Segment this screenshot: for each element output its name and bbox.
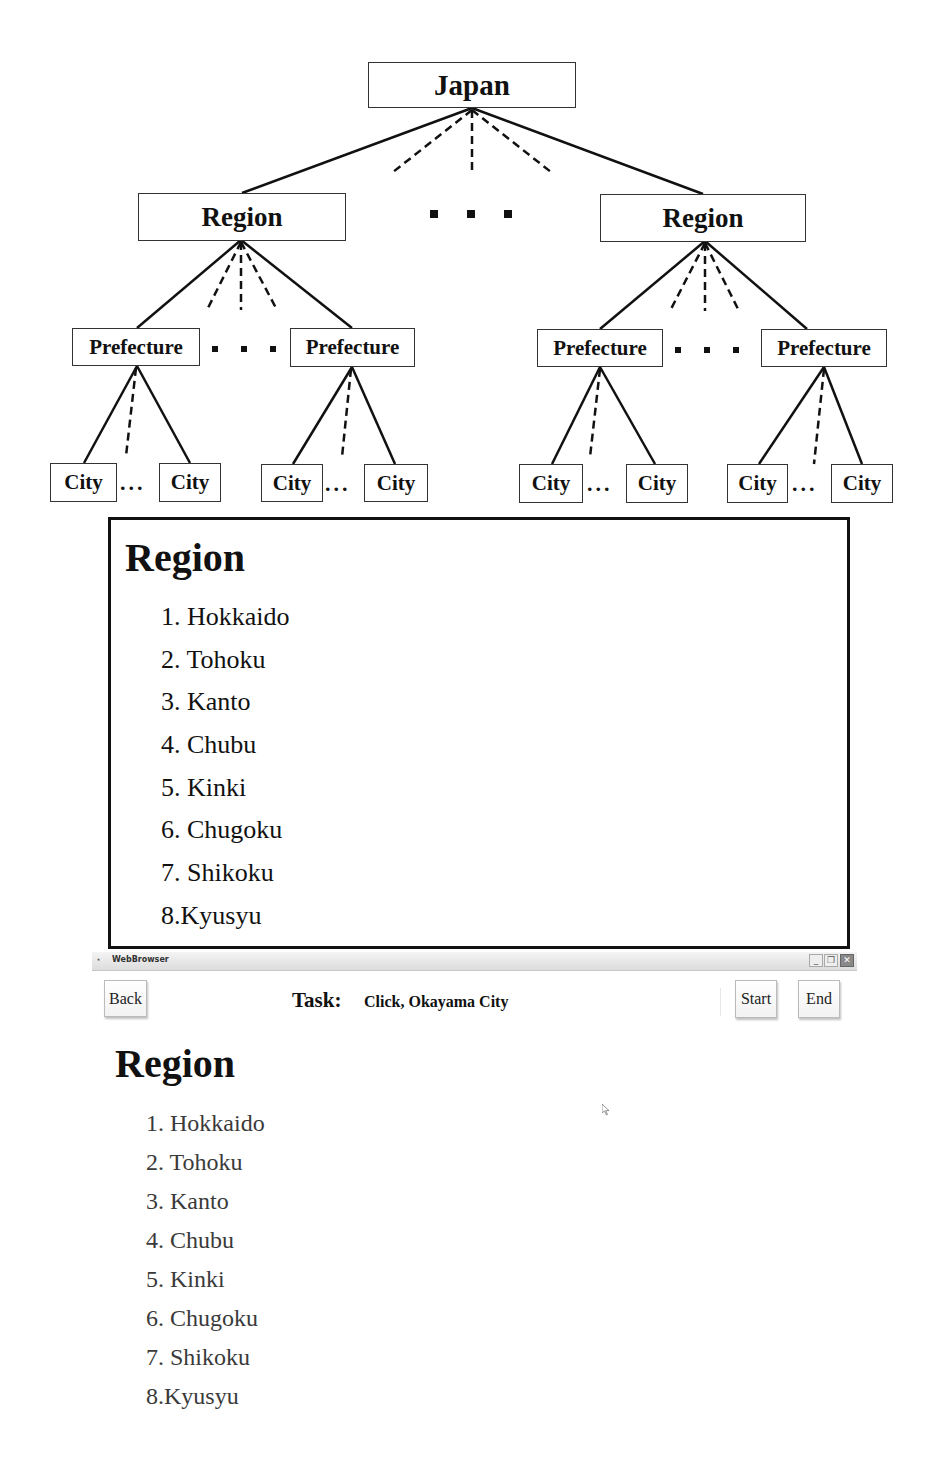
region-link-list: 1. Hokkaido 2. Tohoku 3. Kanto 4. Chubu … xyxy=(146,1104,265,1416)
panel-heading: Region xyxy=(125,534,245,581)
ellipsis-dot xyxy=(704,347,710,353)
node-region-left: Region xyxy=(138,193,346,241)
ellipsis-dot xyxy=(733,347,739,353)
region-link[interactable]: 1. Hokkaido xyxy=(146,1104,265,1143)
panel-region-item: 7. Shikoku xyxy=(161,852,290,895)
end-button[interactable]: End xyxy=(798,980,840,1018)
region-link[interactable]: 4. Chubu xyxy=(146,1221,265,1260)
node-city: City xyxy=(364,464,428,502)
minimize-button[interactable]: _ xyxy=(809,954,823,967)
region-link[interactable]: 7. Shikoku xyxy=(146,1338,265,1377)
region-link[interactable]: 3. Kanto xyxy=(146,1182,265,1221)
city-ellipsis: ... xyxy=(120,470,146,496)
panel-region-item: 3. Kanto xyxy=(161,681,290,724)
region-link[interactable]: 2. Tohoku xyxy=(146,1143,265,1182)
task-instruction: Click, Okayama City xyxy=(364,993,508,1011)
ellipsis-dot xyxy=(430,210,438,218)
node-prefecture: Prefecture xyxy=(761,329,887,367)
task-label: Task: xyxy=(292,988,341,1013)
back-button[interactable]: Back xyxy=(104,980,147,1017)
panel-region-item: 2. Tohoku xyxy=(161,639,290,682)
node-city: City xyxy=(261,464,323,502)
ellipsis-dot xyxy=(212,346,218,352)
panel-region-item: 5. Kinki xyxy=(161,767,290,810)
ellipsis-dot xyxy=(270,346,276,352)
hierarchy-diagram: Japan Region Region Prefecture Prefectur… xyxy=(0,0,935,510)
node-city: City xyxy=(727,464,788,503)
panel-region-item: 8.Kyusyu xyxy=(161,895,290,938)
app-icon: ◔ xyxy=(95,955,105,965)
node-prefecture: Prefecture xyxy=(72,328,200,366)
ellipsis-dot xyxy=(241,346,247,352)
node-japan: Japan xyxy=(368,62,576,108)
node-prefecture: Prefecture xyxy=(537,329,663,367)
panel-region-item: 1. Hokkaido xyxy=(161,596,290,639)
panel-region-item: 4. Chubu xyxy=(161,724,290,767)
node-prefecture: Prefecture xyxy=(290,328,415,367)
city-ellipsis: ... xyxy=(792,471,818,497)
window-title: WebBrowser xyxy=(112,955,169,964)
region-link[interactable]: 6. Chugoku xyxy=(146,1299,265,1338)
node-region-right: Region xyxy=(600,194,806,242)
node-city: City xyxy=(831,464,893,503)
restore-button[interactable]: ❐ xyxy=(824,954,838,967)
page-heading: Region xyxy=(115,1040,235,1087)
city-ellipsis: ... xyxy=(325,471,351,497)
node-city: City xyxy=(519,464,583,503)
window-titlebar[interactable]: ◔ WebBrowser _ ❐ ✕ xyxy=(92,952,857,971)
ellipsis-dot xyxy=(675,347,681,353)
node-city: City xyxy=(159,463,221,502)
node-city: City xyxy=(626,464,688,503)
close-button[interactable]: ✕ xyxy=(840,954,854,967)
toolbar-separator xyxy=(720,988,721,1016)
city-ellipsis: ... xyxy=(587,471,613,497)
mouse-cursor-icon xyxy=(602,1104,610,1116)
region-panel: Region 1. Hokkaido 2. Tohoku 3. Kanto 4.… xyxy=(108,517,850,949)
ellipsis-dot xyxy=(504,210,512,218)
ellipsis-dot xyxy=(467,210,475,218)
panel-region-list: 1. Hokkaido 2. Tohoku 3. Kanto 4. Chubu … xyxy=(161,596,290,938)
node-city: City xyxy=(50,463,117,502)
panel-region-item: 6. Chugoku xyxy=(161,809,290,852)
region-link[interactable]: 5. Kinki xyxy=(146,1260,265,1299)
region-link[interactable]: 8.Kyusyu xyxy=(146,1377,265,1416)
start-button[interactable]: Start xyxy=(735,980,777,1018)
